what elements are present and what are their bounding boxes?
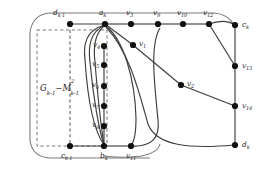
node-v-3[interactable] bbox=[128, 21, 134, 27]
label-b-k: bk bbox=[100, 152, 108, 159]
label-d-k: dk bbox=[242, 141, 250, 148]
curve-cluster-dk bbox=[106, 27, 234, 147]
node-v-4[interactable] bbox=[101, 43, 107, 49]
node-v-9[interactable] bbox=[155, 21, 161, 27]
node-d-k-1[interactable] bbox=[67, 21, 73, 27]
label-c-k: ck bbox=[242, 21, 249, 28]
edge-v1-v2 bbox=[133, 45, 181, 85]
label-v-14: v14 bbox=[242, 102, 252, 109]
label-v-10: v10 bbox=[177, 9, 187, 16]
label-v-3: v3 bbox=[126, 9, 133, 16]
label-d-k-1: dk-1 bbox=[53, 9, 65, 16]
node-v-12[interactable] bbox=[206, 21, 212, 27]
label-v-5: v5 bbox=[92, 60, 99, 67]
node-d-k[interactable] bbox=[232, 142, 238, 148]
label-v-12: v12 bbox=[203, 9, 213, 16]
node-v-10[interactable] bbox=[180, 21, 186, 27]
label-v-8: v8 bbox=[92, 121, 99, 128]
edge-v2-v14 bbox=[181, 85, 235, 106]
label-v-4: v4 bbox=[93, 41, 100, 48]
label-v-2: v2 bbox=[187, 80, 194, 87]
node-c-k[interactable] bbox=[232, 22, 238, 28]
label-a-k: ak bbox=[99, 9, 106, 16]
label-v-1: v1 bbox=[139, 40, 146, 47]
node-v-13[interactable] bbox=[232, 63, 238, 69]
graph-figure: Gk-1−M2k-1 dk-1 ak v3 v9 v10 v12 ck v13 … bbox=[0, 0, 267, 170]
node-v-6[interactable] bbox=[101, 83, 107, 89]
node-b-k[interactable] bbox=[101, 143, 107, 149]
label-v-11: v11 bbox=[126, 152, 136, 159]
label-c-k-1: ck-1 bbox=[61, 152, 72, 159]
node-v-7[interactable] bbox=[101, 103, 107, 109]
node-v-14[interactable] bbox=[232, 103, 238, 109]
label-v-6: v6 bbox=[92, 81, 99, 88]
label-v-7: v7 bbox=[92, 101, 99, 108]
label-v-13: v13 bbox=[242, 62, 252, 69]
region-label: Gk-1−M2k-1 bbox=[40, 83, 79, 95]
node-v-2[interactable] bbox=[178, 82, 184, 88]
edge-v12-v13 bbox=[209, 24, 235, 66]
node-a-k[interactable] bbox=[102, 21, 108, 27]
curve-v12-ck bbox=[209, 21, 235, 25]
node-v-5[interactable] bbox=[101, 62, 107, 68]
node-c-k-1[interactable] bbox=[67, 143, 73, 149]
node-v-8[interactable] bbox=[101, 123, 107, 129]
label-v-9: v9 bbox=[153, 9, 160, 16]
node-v-1[interactable] bbox=[130, 42, 136, 48]
node-v-11[interactable] bbox=[128, 143, 134, 149]
